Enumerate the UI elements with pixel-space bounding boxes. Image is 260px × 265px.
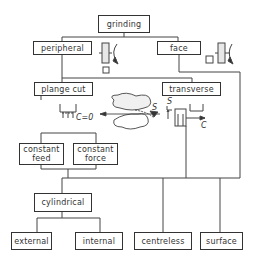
peripheral-wheel-icon xyxy=(99,43,118,73)
s-label-right: S xyxy=(167,97,172,106)
connector-face xyxy=(179,55,240,178)
node-internal: internal xyxy=(75,232,123,250)
node-centreless: centreless xyxy=(134,232,192,250)
node-peripheral: peripheral xyxy=(33,41,92,55)
connector-peripheral xyxy=(62,55,192,82)
connector-constants-bottom xyxy=(41,165,96,178)
connector-grinding xyxy=(62,33,178,41)
node-plange-cut: plange cut xyxy=(34,82,93,96)
node-constant-force: constant force xyxy=(73,143,118,165)
c-zero-label: C=0 xyxy=(76,113,93,122)
transverse-schematic-icon xyxy=(167,104,205,126)
node-transverse: transverse xyxy=(162,82,221,96)
node-cylindrical: cylindrical xyxy=(34,193,92,212)
node-grinding: grinding xyxy=(98,15,150,33)
node-constant-feed: constant feed xyxy=(19,143,64,165)
node-surface: surface xyxy=(200,232,243,250)
face-wheel-icon xyxy=(206,43,233,64)
diagram-canvas: C=0 S S C xyxy=(0,0,260,265)
chip-workpiece-icon xyxy=(100,93,160,129)
node-face: face xyxy=(157,41,201,55)
plange-cut-schematic-icon xyxy=(60,104,76,118)
c-label: C xyxy=(201,121,207,130)
node-external: external xyxy=(11,232,52,250)
s-label-left: S xyxy=(152,103,157,112)
connector-constants-top xyxy=(41,133,96,143)
connector-cyl-children xyxy=(37,212,100,232)
